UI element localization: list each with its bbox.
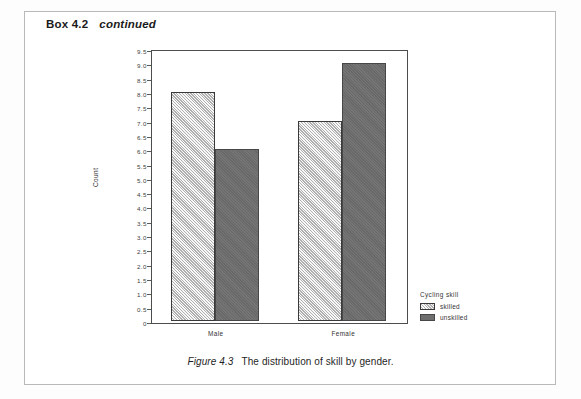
bar-female-skilled: [298, 121, 342, 321]
y-axis-tick-label: 2.0: [137, 262, 147, 269]
y-axis-tick-label: 6.5: [137, 133, 147, 140]
y-axis-tick-mark: [147, 266, 151, 267]
y-axis-tick-label: 5.5: [137, 162, 147, 169]
legend-items: skilledunskilled: [420, 303, 532, 321]
y-axis-tick-mark: [147, 123, 151, 124]
legend-label-unskilled: unskilled: [440, 314, 468, 321]
figure-caption: Figure 4.3The distribution of skill by g…: [0, 356, 581, 367]
bars-layer: [151, 50, 406, 322]
y-axis-tick-label: 4.0: [137, 205, 147, 212]
bar-male-unskilled: [215, 149, 259, 321]
y-axis-tick-label: 2.5: [137, 248, 147, 255]
bar-male-skilled: [171, 92, 215, 321]
y-axis-tick-mark: [147, 237, 151, 238]
y-axis-tick-label: 8.5: [137, 76, 147, 83]
y-axis-tick-label: 9.0: [137, 62, 147, 69]
y-axis-tick-mark: [147, 194, 151, 195]
y-axis-tick-label: 3.0: [137, 234, 147, 241]
bar-female-unskilled: [342, 63, 386, 321]
legend-label-skilled: skilled: [440, 303, 460, 310]
y-axis-tick-label: 1.0: [137, 291, 147, 298]
y-axis-tick-mark: [147, 151, 151, 152]
y-axis-tick-label: 3.5: [137, 219, 147, 226]
y-axis-tick-label: 7.0: [137, 119, 147, 126]
y-axis-tick-mark: [147, 323, 151, 324]
bar-chart: Count 9.59.08.58.07.57.06.56.05.55.04.54…: [0, 0, 581, 399]
y-axis-tick-mark: [147, 65, 151, 66]
figure-number: Figure 4.3: [187, 356, 233, 367]
y-axis-title: Count: [92, 168, 99, 187]
y-axis-tick-label: 1.5: [137, 277, 147, 284]
y-axis-tick-label: 4.5: [137, 191, 147, 198]
y-axis-tick-mark: [147, 80, 151, 81]
chart-legend: Cycling skill skilledunskilled: [420, 291, 532, 325]
legend-title: Cycling skill: [420, 291, 532, 298]
y-axis-tick-mark: [147, 166, 151, 167]
figure-caption-text: The distribution of skill by gender.: [242, 356, 394, 367]
y-axis-tick-mark: [147, 294, 151, 295]
y-axis-tick-mark: [147, 137, 151, 138]
y-axis-tick-label: 0.5: [137, 305, 147, 312]
legend-swatch-skilled: [420, 303, 435, 310]
y-axis-tick-mark: [147, 223, 151, 224]
y-axis-tick-label: 5.0: [137, 176, 147, 183]
y-axis-tick-labels: 9.59.08.58.07.57.06.56.05.55.04.54.03.53…: [116, 50, 147, 324]
y-axis-tick-mark: [147, 94, 151, 95]
y-axis-tick-mark: [147, 280, 151, 281]
y-axis-tick-label: 9.5: [137, 48, 147, 55]
y-axis-tick-mark: [147, 51, 151, 52]
y-axis-tick-mark: [147, 208, 151, 209]
y-axis-tick-label: 6.0: [137, 148, 147, 155]
y-axis-tick-label: 7.5: [137, 105, 147, 112]
plot-area: [151, 50, 408, 324]
x-axis-label-female: Female: [331, 330, 355, 337]
legend-swatch-unskilled: [420, 314, 435, 321]
y-axis-tick-mark: [147, 251, 151, 252]
legend-item-skilled: skilled: [420, 303, 532, 310]
y-axis-tick-mark: [147, 309, 151, 310]
y-axis-tick-mark: [147, 108, 151, 109]
y-axis-tick-label: 8.0: [137, 90, 147, 97]
x-axis-label-male: Male: [208, 330, 223, 337]
legend-item-unskilled: unskilled: [420, 314, 532, 321]
y-axis-tick-mark: [147, 180, 151, 181]
